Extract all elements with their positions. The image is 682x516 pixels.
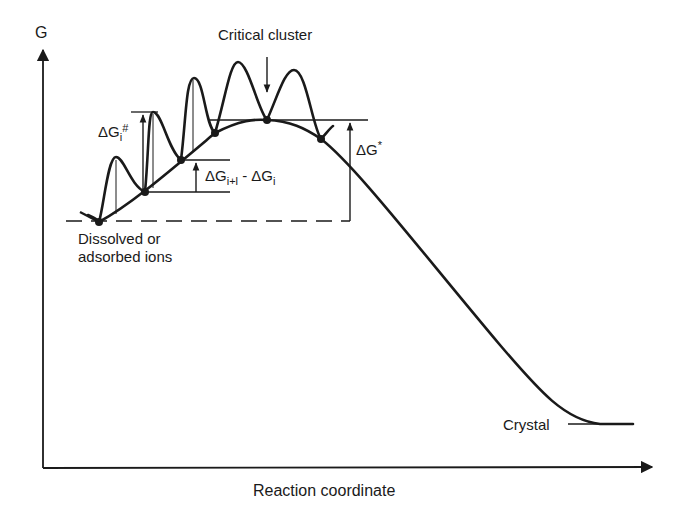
critical-cluster-label: Critical cluster xyxy=(218,26,312,43)
delta-g-difference-annotation: ΔGi+l - ΔGi xyxy=(148,160,275,192)
delta-g-i-hash-base: ΔG xyxy=(98,123,120,140)
x-axis-label: Reaction coordinate xyxy=(253,482,395,499)
delta-g-diff-sub1: i+l xyxy=(227,175,238,187)
delta-g-star-sup: * xyxy=(378,139,383,151)
stepwise-barrier-curve xyxy=(88,62,333,222)
delta-g-diff-minus: - xyxy=(238,167,251,184)
start-state-label-line1: Dissolved or xyxy=(78,230,161,247)
delta-g-diff-part1: ΔG xyxy=(205,167,227,184)
delta-g-i-hash-sup: # xyxy=(122,122,129,134)
x-axis xyxy=(43,467,652,468)
svg-text:ΔGi#: ΔGi# xyxy=(98,122,129,143)
y-axis-label: G xyxy=(35,24,47,41)
minimum-point xyxy=(263,116,271,124)
minimum-point xyxy=(141,188,149,196)
delta-g-diff-sub2: i xyxy=(273,175,275,187)
svg-text:ΔGi+l - ΔGi: ΔGi+l - ΔGi xyxy=(205,167,275,187)
crystal-label: Crystal xyxy=(503,416,550,433)
svg-text:ΔG*: ΔG* xyxy=(356,139,383,158)
minimum-point xyxy=(211,129,219,137)
start-state-label-line2: adsorbed ions xyxy=(78,248,172,265)
delta-g-star-base: ΔG xyxy=(356,141,378,158)
delta-g-diff-part2: ΔG xyxy=(251,167,273,184)
nucleation-free-energy-diagram: G Reaction coordinate Critical cluster Δ… xyxy=(0,0,682,516)
free-energy-envelope xyxy=(99,120,633,424)
minimum-point xyxy=(317,135,325,143)
minimum-point xyxy=(95,218,103,226)
